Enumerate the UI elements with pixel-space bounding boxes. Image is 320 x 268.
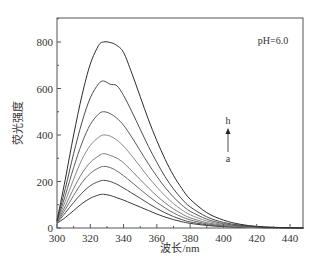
plot-area: 300320340360380400420440 0200400600800 [37, 18, 304, 244]
y-axis-title: 荧光强度 [11, 101, 24, 145]
spectrum-curve-e [57, 135, 303, 228]
x-tick-label: 440 [282, 232, 299, 244]
fluorescence-spectrum-chart: 300320340360380400420440 0200400600800 p… [0, 0, 320, 268]
spectrum-curve-d [57, 154, 303, 228]
spectrum-curves [57, 42, 303, 228]
spectrum-curve-h [57, 42, 303, 228]
spectrum-curve-f [57, 112, 303, 228]
x-tick-label: 400 [215, 232, 232, 244]
y-tick-label: 600 [37, 83, 54, 95]
arrow-label-top: h [226, 115, 231, 126]
x-tick-label: 420 [248, 232, 265, 244]
arrow-label-bottom: a [226, 153, 231, 164]
x-tick-label: 340 [115, 232, 132, 244]
spectrum-curve-g [57, 81, 303, 228]
y-tick-label: 800 [37, 36, 54, 48]
x-axis-title: 波长/nm [160, 242, 200, 254]
x-tick-label: 320 [82, 232, 99, 244]
spectrum-curve-a [57, 194, 303, 228]
arrow-up-icon [226, 128, 231, 134]
y-tick-label: 200 [37, 176, 54, 188]
ph-annotation: pH=6.0 [258, 35, 288, 46]
y-tick-label: 400 [37, 129, 54, 141]
arrow-annotation: h a [226, 115, 231, 164]
y-tick-label: 0 [48, 222, 54, 234]
